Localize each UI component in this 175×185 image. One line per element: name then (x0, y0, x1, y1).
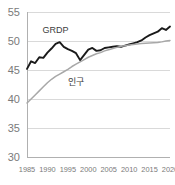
x-tick-label-2015: 2015 (141, 165, 157, 174)
x-tick-label-2010: 2010 (121, 165, 137, 174)
y-tick-label-40: 40 (8, 93, 20, 105)
y-tick-label-35: 35 (8, 122, 20, 134)
series-label-population: 인구 (68, 77, 84, 87)
x-tick-label-2020: 2020 (162, 165, 175, 174)
x-tick-label-1995: 1995 (60, 165, 76, 174)
y-tick-label-30: 30 (8, 151, 20, 163)
series-label-grdp: GRDP (43, 25, 69, 35)
y-tick-label-50: 50 (8, 35, 20, 47)
y-tick-label-45: 45 (8, 64, 20, 76)
y-axis-tick-labels: 303540455055 (8, 6, 20, 163)
chart-canvas: 303540455055 198519901995200020052010201… (0, 0, 175, 185)
y-tick-label-55: 55 (8, 6, 20, 18)
x-tick-label-2000: 2000 (80, 165, 96, 174)
x-tick-label-1990: 1990 (39, 165, 55, 174)
x-tick-label-1985: 1985 (19, 165, 35, 174)
x-tick-label-2005: 2005 (100, 165, 116, 174)
x-axis-tick-labels: 19851990199520002005201020152020 (19, 165, 175, 174)
grdp-population-line-chart: 303540455055 198519901995200020052010201… (0, 0, 175, 185)
data-series-lines (27, 27, 170, 104)
